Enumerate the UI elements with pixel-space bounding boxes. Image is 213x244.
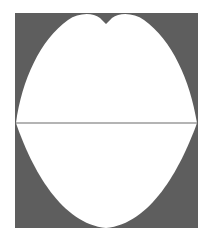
diagram-canvas — [0, 0, 213, 244]
